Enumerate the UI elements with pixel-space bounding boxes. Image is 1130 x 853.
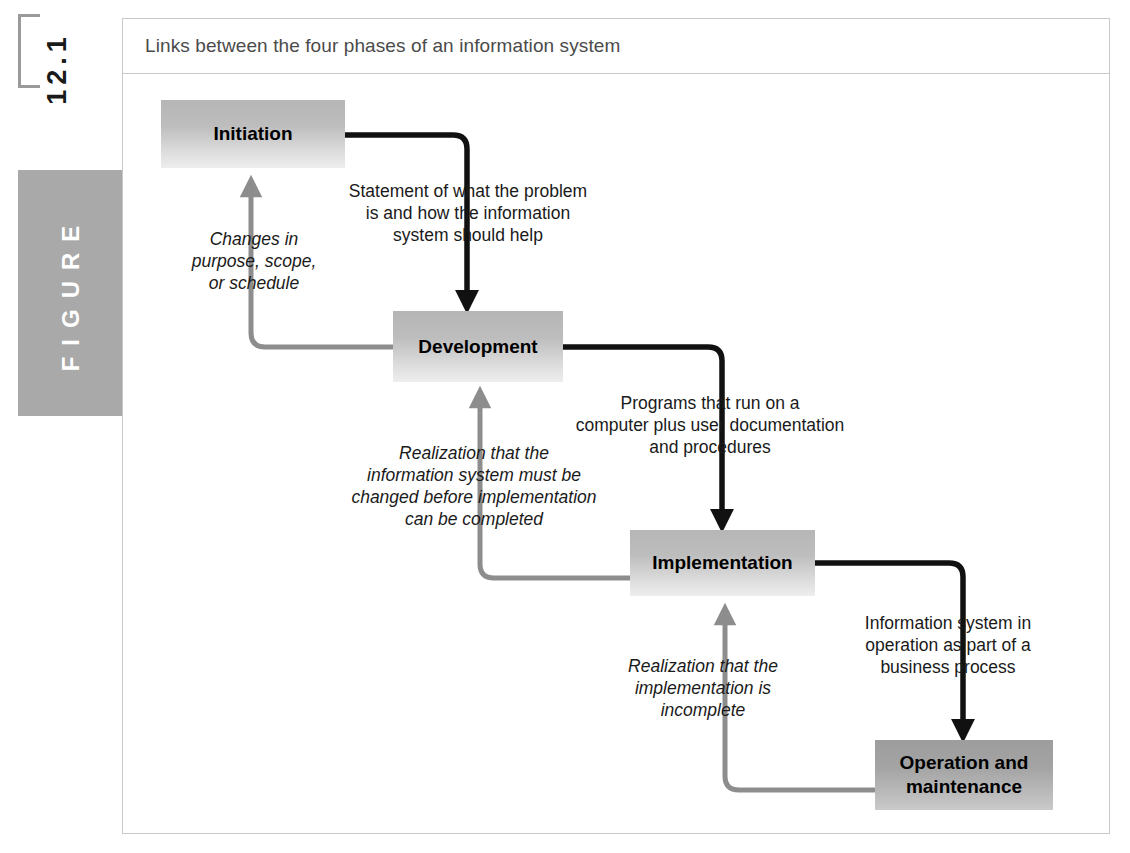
flow-label-1-line-1: Statement of what the problem bbox=[349, 181, 587, 201]
flow-label-development-to-implementation: Programs that run on a computer plus use… bbox=[560, 392, 860, 458]
phase-box-initiation[interactable]: Initiation bbox=[161, 100, 345, 168]
diagram-canvas: Initiation Development Implementation Op… bbox=[0, 0, 1130, 853]
feedback-label-3-line-3: incomplete bbox=[661, 700, 746, 720]
flow-label-2-line-2: computer plus user documentation bbox=[576, 415, 844, 435]
phase-box-implementation[interactable]: Implementation bbox=[630, 530, 815, 596]
flow-label-3-line-1: Information system in bbox=[865, 613, 1031, 633]
operation-label-line-2: maintenance bbox=[906, 776, 1022, 797]
phase-box-initiation-label: Initiation bbox=[213, 122, 292, 146]
flow-label-2-line-1: Programs that run on a bbox=[621, 393, 800, 413]
figure-page: 12.1 FIGURE Links between the four phase… bbox=[0, 0, 1130, 853]
feedback-label-1-line-2: purpose, scope, bbox=[192, 251, 317, 271]
feedback-label-1-line-1: Changes in bbox=[210, 229, 299, 249]
operation-label-line-1: Operation and bbox=[900, 752, 1029, 773]
phase-box-development[interactable]: Development bbox=[393, 311, 563, 382]
flow-label-3-line-2: operation as part of a bbox=[865, 635, 1030, 655]
feedback-label-3-line-2: implementation is bbox=[635, 678, 771, 698]
feedback-label-implementation-to-development: Realization that the information system … bbox=[350, 442, 598, 530]
flow-label-2-line-3: and procedures bbox=[649, 437, 771, 457]
flow-label-3-line-3: business process bbox=[880, 657, 1015, 677]
feedback-label-2-line-2: information system must be bbox=[367, 465, 581, 485]
feedback-label-development-to-initiation: Changes in purpose, scope, or schedule bbox=[174, 228, 334, 294]
phase-box-operation-maintenance-label: Operation and maintenance bbox=[900, 751, 1029, 799]
flow-label-initiation-to-development: Statement of what the problem is and how… bbox=[337, 180, 599, 246]
phase-box-operation-maintenance[interactable]: Operation and maintenance bbox=[875, 740, 1053, 810]
phase-box-implementation-label: Implementation bbox=[652, 551, 792, 575]
flow-label-1-line-3: system should help bbox=[393, 225, 543, 245]
feedback-label-3-line-1: Realization that the bbox=[628, 656, 778, 676]
flow-label-1-line-2: is and how the information bbox=[366, 203, 570, 223]
flow-label-implementation-to-operation: Information system in operation as part … bbox=[843, 612, 1053, 678]
feedback-label-1-line-3: or schedule bbox=[209, 273, 299, 293]
feedback-label-2-line-4: can be completed bbox=[405, 509, 543, 529]
feedback-label-operation-to-implementation: Realization that the implementation is i… bbox=[592, 655, 814, 721]
phase-box-development-label: Development bbox=[418, 335, 537, 359]
feedback-label-2-line-1: Realization that the bbox=[399, 443, 549, 463]
feedback-label-2-line-3: changed before implementation bbox=[351, 487, 596, 507]
